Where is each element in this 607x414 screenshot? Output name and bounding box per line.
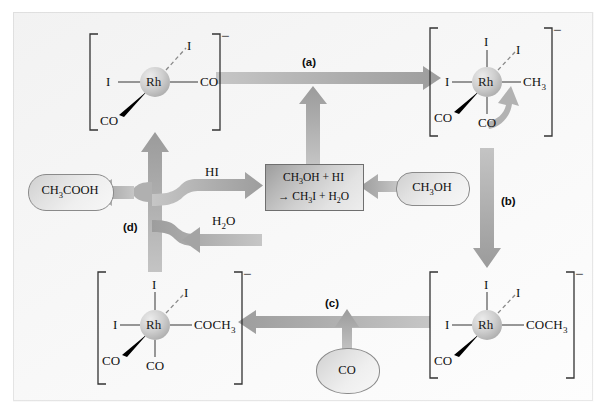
arrow-label-water: H2O — [212, 213, 235, 231]
diagram-canvas: Rh I CO I CO − Rh I I CH3 I CO CO − Rh I… — [0, 0, 607, 414]
step-label-b: (b) — [501, 195, 516, 207]
metal-label-bottom-left: Rh — [146, 317, 161, 333]
arrow-label-hi: HI — [205, 164, 219, 180]
carbon-monoxide-label: CO — [316, 363, 378, 378]
ligand-top-right-dashed: I — [516, 42, 521, 58]
ligand-bottom-right-wedge: CO — [434, 353, 452, 369]
reaction-box-text: CH3OH + HI → CH3I + H2O — [265, 170, 362, 209]
ligand-top-right-bottom: CO — [478, 115, 496, 131]
ligand-bottom-right-top: I — [484, 277, 489, 293]
ligand-top-right-left: I — [445, 74, 450, 90]
ligand-bottom-right-right: COCH3 — [526, 317, 568, 335]
ligand-bottom-left-right: COCH3 — [194, 317, 236, 335]
ligand-bottom-left-dashed: I — [184, 285, 189, 301]
charge-top-left: − — [221, 28, 229, 45]
ligand-top-right-wedge: CO — [434, 110, 452, 126]
charge-bottom-right: − — [575, 266, 583, 283]
step-label-a: (a) — [302, 56, 316, 68]
ligand-bottom-left-left: I — [113, 317, 118, 333]
step-label-c: (c) — [325, 297, 339, 309]
ligand-top-left-dashed: I — [187, 38, 192, 54]
metal-label-bottom-right: Rh — [478, 317, 493, 333]
charge-top-right: − — [553, 22, 561, 39]
reaction-line-2: → CH3I + H2O — [265, 189, 362, 208]
ligand-top-left-right: CO — [200, 74, 218, 90]
reaction-line-1: CH3OH + HI — [265, 170, 362, 189]
ligand-bottom-left-wedge: CO — [102, 353, 120, 369]
ligand-top-left-wedge: CO — [100, 113, 118, 129]
acetic-acid-label: CH3COOH — [28, 183, 112, 200]
methanol-label: CH3OH — [396, 180, 468, 197]
ligand-bottom-left-top: I — [152, 277, 157, 293]
ligand-top-right-top: I — [484, 34, 489, 50]
charge-bottom-left: − — [243, 266, 251, 283]
ligand-bottom-left-bottom: CO — [146, 358, 164, 374]
ligand-bottom-right-left: I — [445, 317, 450, 333]
ligand-top-left-left: I — [106, 74, 111, 90]
step-label-d: (d) — [123, 221, 138, 233]
ligand-top-right-right: CH3 — [523, 74, 546, 92]
metal-label-top-left: Rh — [146, 74, 161, 90]
metal-label-top-right: Rh — [478, 74, 493, 90]
ligand-bottom-right-dashed: I — [516, 285, 521, 301]
